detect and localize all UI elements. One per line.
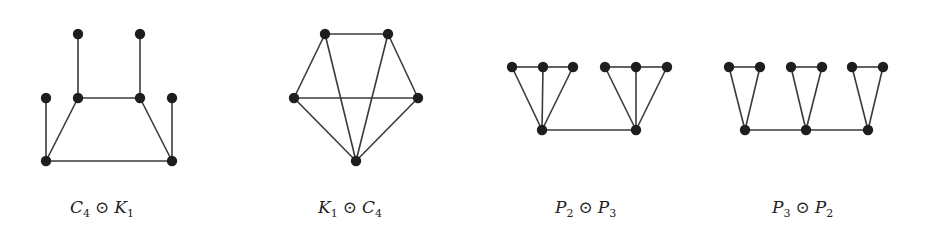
graph-edge <box>745 67 760 130</box>
graph-edge <box>46 98 78 161</box>
label-left-symbol: P <box>772 197 783 217</box>
label-right-subscript: 3 <box>609 207 616 220</box>
graph-edge <box>294 98 356 161</box>
label-left-subscript: 3 <box>783 207 790 220</box>
graph-edge <box>542 67 573 130</box>
graph-edge <box>806 67 822 130</box>
graph-edge <box>140 98 172 161</box>
graph-vertex <box>724 62 734 72</box>
graph-edge <box>729 67 745 130</box>
corona-operator: ⊙ <box>343 197 357 217</box>
graph-vertex <box>537 125 547 135</box>
graph-vertex <box>801 125 811 135</box>
graph-vertex <box>413 93 423 103</box>
graph-vertex <box>847 62 857 72</box>
graph-c4-corona-k1 <box>41 29 177 166</box>
graph-vertex <box>817 62 827 72</box>
graph-vertex <box>568 62 578 72</box>
graph-edge <box>605 67 636 130</box>
graph-vertex <box>878 62 888 72</box>
graph-edge <box>791 67 806 130</box>
graph-vertex <box>73 29 83 39</box>
graph-edge <box>356 98 418 161</box>
graph-vertex <box>135 93 145 103</box>
graph-vertex <box>631 125 641 135</box>
graph-vertex <box>73 93 83 103</box>
graph-vertex <box>863 125 873 135</box>
graph-vertex <box>167 93 177 103</box>
graph-edge <box>852 67 868 130</box>
graph-edge <box>542 67 543 130</box>
graph-vertex <box>600 62 610 72</box>
label-left-symbol: C <box>70 197 83 217</box>
label-right-symbol: P <box>598 197 609 217</box>
graph-vertex <box>631 62 641 72</box>
graph-vertex <box>538 62 548 72</box>
graph-vertex <box>740 125 750 135</box>
corona-operator: ⊙ <box>578 197 592 217</box>
graph-vertex <box>320 29 330 39</box>
graph-p2-corona-p3 <box>507 62 672 135</box>
graph-edge <box>868 67 883 130</box>
graph-vertex <box>786 62 796 72</box>
label-right-symbol: P <box>815 197 826 217</box>
graph-vertex <box>41 93 51 103</box>
graph-edge <box>636 67 667 130</box>
graph-vertex <box>662 62 672 72</box>
label-left-symbol: P <box>555 197 566 217</box>
label-left-subscript: 4 <box>83 207 90 220</box>
label-k1-corona-c4: K1⊙C4 <box>318 197 382 220</box>
label-right-subscript: 1 <box>127 207 134 220</box>
graph-edge <box>512 67 542 130</box>
graph-vertex <box>383 29 393 39</box>
label-left-subscript: 1 <box>331 207 338 220</box>
label-right-subscript: 4 <box>375 207 382 220</box>
label-right-symbol: C <box>362 197 375 217</box>
graph-vertex <box>41 156 51 166</box>
label-right-subscript: 2 <box>826 207 833 220</box>
graph-edge <box>294 34 325 98</box>
label-right-symbol: K <box>114 197 127 217</box>
graph-vertex <box>135 29 145 39</box>
label-left-symbol: K <box>318 197 331 217</box>
graph-vertex <box>507 62 517 72</box>
label-left-subscript: 2 <box>566 207 573 220</box>
graph-vertex <box>289 93 299 103</box>
graph-vertex <box>167 156 177 166</box>
graph-edge <box>388 34 418 98</box>
graph-vertex <box>755 62 765 72</box>
graph-p3-corona-p2 <box>724 62 888 135</box>
label-p3-corona-p2: P3⊙P2 <box>772 197 833 220</box>
label-p2-corona-p3: P2⊙P3 <box>555 197 616 220</box>
corona-operator: ⊙ <box>95 197 109 217</box>
label-c4-corona-k1: C4⊙K1 <box>70 197 134 220</box>
graph-k1-corona-c4 <box>289 29 423 166</box>
corona-operator: ⊙ <box>795 197 809 217</box>
graph-vertex <box>351 156 361 166</box>
